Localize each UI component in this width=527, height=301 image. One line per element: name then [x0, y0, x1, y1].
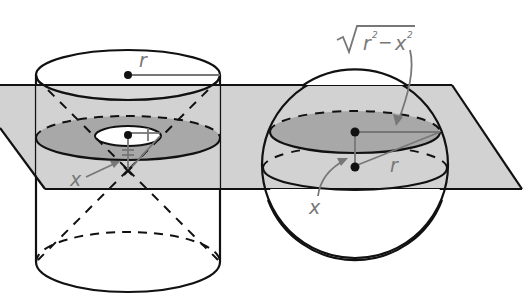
sphere-section-center-dot [351, 128, 360, 137]
svg-text:x: x [394, 32, 407, 54]
sphere-radius-label: r [390, 154, 399, 176]
sqrt-expression: r 2 − x 2 [337, 26, 415, 54]
svg-text:−: − [378, 32, 392, 52]
cylinder-section-center-dot [124, 131, 132, 139]
sphere-x-label: x [308, 196, 321, 218]
cylinder-x-label: x [69, 168, 82, 190]
cylinder-top-center-dot [124, 71, 132, 79]
svg-text:2: 2 [407, 30, 413, 40]
svg-text:r: r [363, 32, 372, 54]
cylinder-bottom-hidden-arc [36, 232, 220, 262]
cylinder-radius-label: r [139, 49, 148, 71]
sphere-center-dot [351, 163, 360, 172]
cavalieri-diagram: r x r x r 2 − x 2 [0, 0, 527, 301]
cylinder-bottom-arc [36, 262, 220, 292]
